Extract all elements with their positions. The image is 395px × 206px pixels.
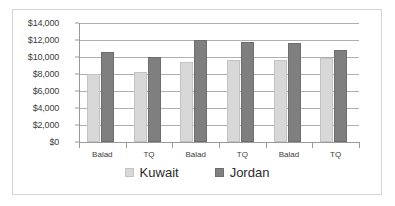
- x-axis-ticks: [79, 142, 359, 149]
- y-axis-tick-label: $8,000: [33, 69, 59, 79]
- y-axis-tick-label: $2,000: [33, 120, 59, 130]
- y-axis-tick-label: $4,000: [33, 103, 59, 113]
- x-axis-label-3: TQ: [237, 150, 248, 159]
- x-axis-label-1: TQ: [143, 150, 154, 159]
- bar-jordan-tq-5: [334, 50, 347, 142]
- bar-kuwait-balad-4: [274, 60, 287, 142]
- x-axis-label-5: TQ: [330, 150, 341, 159]
- x-axis-tick: [359, 142, 360, 148]
- legend-swatch-jordan: [215, 168, 224, 177]
- y-axis-line: [79, 23, 80, 142]
- bar-jordan-tq-1: [148, 57, 161, 142]
- y-axis-tick-mark: [75, 91, 79, 92]
- bar-kuwait-tq-3: [227, 60, 240, 142]
- bar-jordan-balad-2: [194, 40, 207, 142]
- gridline: [79, 108, 359, 109]
- bar-jordan-balad-4: [288, 43, 301, 142]
- chart-container: $14,000$12,000$10,000$8,000$6,000$4,000$…: [12, 9, 382, 195]
- gridline: [79, 125, 359, 126]
- x-axis-tick: [79, 142, 80, 148]
- x-axis-label-4: Balad: [279, 150, 299, 159]
- y-axis-tick-label: $0: [49, 137, 59, 147]
- bar-kuwait-balad-0: [87, 74, 100, 142]
- x-axis-labels: BaladTQBaladTQBaladTQ: [79, 150, 359, 164]
- legend-label-jordan: Jordan: [230, 165, 270, 180]
- legend-label-kuwait: Kuwait: [140, 165, 179, 180]
- y-axis-tick-label: $14,000: [28, 18, 59, 28]
- x-axis-tick: [266, 142, 267, 148]
- y-axis-tick-mark: [75, 74, 79, 75]
- gridline: [79, 23, 359, 24]
- legend-swatch-kuwait: [125, 168, 134, 177]
- bar-kuwait-tq-1: [134, 72, 147, 142]
- plot-area: [79, 23, 359, 142]
- gridline: [79, 57, 359, 58]
- x-axis-label-2: Balad: [185, 150, 205, 159]
- x-axis-tick: [219, 142, 220, 148]
- y-axis-tick-mark: [75, 23, 79, 24]
- gridline: [79, 74, 359, 75]
- y-axis-tick-mark: [75, 40, 79, 41]
- legend-item-kuwait[interactable]: Kuwait: [125, 165, 179, 180]
- x-axis-tick: [312, 142, 313, 148]
- y-axis-tick-mark: [75, 57, 79, 58]
- gridline: [79, 91, 359, 92]
- y-axis-tick-label: $12,000: [28, 35, 59, 45]
- y-axis-tick-label: $10,000: [28, 52, 59, 62]
- y-axis-tick-mark: [75, 108, 79, 109]
- x-axis-label-0: Balad: [92, 150, 112, 159]
- bar-jordan-tq-3: [241, 42, 254, 142]
- chart-legend: KuwaitJordan: [13, 165, 381, 180]
- gridline: [79, 40, 359, 41]
- bar-jordan-balad-0: [101, 52, 114, 142]
- x-axis-tick: [172, 142, 173, 148]
- y-axis-tick-mark: [75, 125, 79, 126]
- y-axis-tick-label: $6,000: [33, 86, 59, 96]
- x-axis-tick: [126, 142, 127, 148]
- bar-kuwait-balad-2: [180, 62, 193, 142]
- legend-item-jordan[interactable]: Jordan: [215, 165, 270, 180]
- bar-kuwait-tq-5: [320, 58, 333, 142]
